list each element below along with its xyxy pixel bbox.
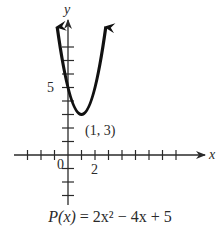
x-tick-label-0: 0 xyxy=(57,157,64,172)
function-name: P(x) xyxy=(48,208,76,225)
function-expression: = 2x² − 4x + 5 xyxy=(80,208,172,225)
x-tick-label-2: 2 xyxy=(91,162,98,177)
vertex-annotation: (1, 3) xyxy=(85,123,116,139)
parabola-graph: y x 5 0 2 (1, 3) xyxy=(0,0,220,236)
y-axis-label: y xyxy=(62,2,71,17)
x-axis-label: x xyxy=(208,147,216,162)
y-tick-label-5: 5 xyxy=(47,80,54,95)
function-caption: P(x) = 2x² − 4x + 5 xyxy=(0,208,220,226)
